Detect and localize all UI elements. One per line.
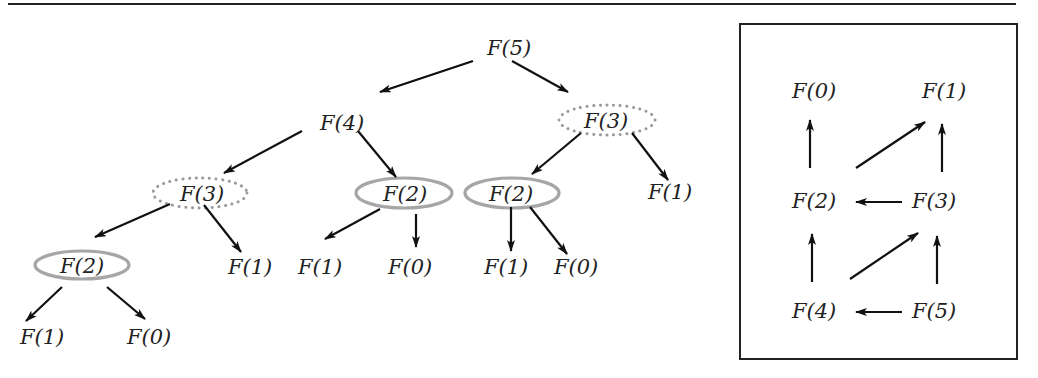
tree-node-f2-b: F(2) — [488, 182, 533, 206]
tree-node-f1: F(1) — [19, 325, 64, 349]
fibonacci-figure: F(5) F(4) F(3) F(3) F(2) F(2) F(1) F(2) … — [0, 0, 1038, 378]
arrow-f2l-to-f1 — [26, 287, 62, 321]
arrow-f2-to-f1 — [856, 122, 925, 168]
dag-node-f4: F(4) — [791, 299, 836, 323]
tree-node-f1-right: F(1) — [647, 180, 692, 204]
arrow-f2a-to-f1 — [325, 209, 380, 239]
arrow-f2b-to-f0 — [530, 207, 567, 254]
tree-node-f2-a: F(2) — [382, 182, 427, 206]
tree-node-f0: F(0) — [553, 255, 598, 279]
tree-node-f1: F(1) — [227, 255, 272, 279]
arrow-f4-to-f3 — [850, 233, 918, 279]
dag-node-f2: F(2) — [791, 189, 836, 213]
arrow-f4-to-f3 — [224, 131, 302, 173]
arrow-f3l-to-f2 — [95, 204, 170, 237]
tree-node-f0: F(0) — [126, 325, 171, 349]
arrow-f3l-to-f1 — [204, 205, 241, 252]
arrow-f2l-to-f0 — [107, 287, 145, 319]
tree-node-f0: F(0) — [387, 255, 432, 279]
arrow-f5-to-f4 — [380, 61, 473, 92]
tree-node-f4: F(4) — [319, 111, 364, 135]
dag-node-f0: F(0) — [791, 79, 836, 103]
dependency-dag-panel: F(0) F(1) F(2) F(3) F(4) F(5) — [740, 24, 1017, 359]
arrow-f3r-to-f1 — [632, 133, 668, 180]
recursion-tree: F(5) F(4) F(3) F(3) F(2) F(2) F(1) F(2) … — [19, 36, 692, 349]
arrow-f5-to-f3 — [512, 61, 568, 92]
dag-node-f3: F(3) — [911, 189, 956, 213]
arrow-f3r-to-f2 — [532, 133, 581, 174]
tree-node-f5: F(5) — [486, 36, 531, 60]
tree-node-f1: F(1) — [297, 255, 342, 279]
tree-node-f1: F(1) — [483, 255, 528, 279]
tree-node-f2-left: F(2) — [59, 254, 104, 278]
arrow-f4-to-f2 — [358, 131, 396, 177]
tree-node-f3-left: F(3) — [179, 182, 224, 206]
dag-node-f1: F(1) — [921, 79, 966, 103]
dag-frame — [740, 24, 1017, 359]
tree-node-f3-right: F(3) — [583, 109, 628, 133]
dag-node-f5: F(5) — [911, 299, 956, 323]
